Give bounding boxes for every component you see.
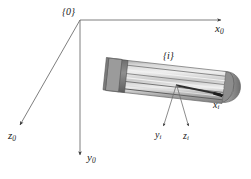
axis-z0-line — [20, 20, 80, 125]
frame-label-i: {i} — [163, 51, 174, 61]
frame-label-0: {0} — [62, 7, 75, 17]
diagram-vector-layer — [0, 0, 251, 179]
axis-label-y0-subscript: 0 — [92, 156, 96, 165]
axis-label-yi: yi — [155, 130, 161, 141]
axis-label-z0: z0 — [8, 130, 16, 142]
diagram-canvas: {0} {i} x0 y0 z0 xi yi zi — [0, 0, 251, 179]
axis-label-xi-subscript: i — [217, 103, 219, 110]
axis-label-x0: x0 — [215, 23, 224, 35]
axis-label-y0: y0 — [87, 152, 96, 164]
axis-label-z0-subscript: 0 — [12, 134, 16, 143]
axis-label-zi: zi — [183, 131, 189, 142]
axis-label-xi: xi — [213, 100, 219, 111]
axis-label-yi-subscript: i — [159, 133, 161, 140]
robot-link-cylinder — [103, 58, 241, 105]
axis-label-x0-subscript: 0 — [220, 27, 224, 36]
axis-label-zi-subscript: i — [187, 134, 189, 141]
